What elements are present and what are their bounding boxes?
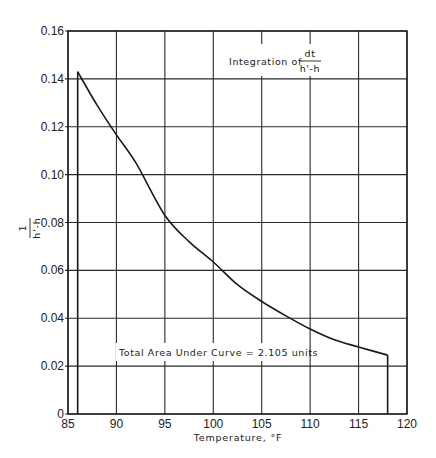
- y-axis-label: 1 h'-h: [17, 217, 42, 238]
- annotation-total-area: Total Area Under Curve = 2.105 units: [118, 347, 318, 358]
- data-curve: [78, 72, 388, 355]
- x-tick-label: 120: [397, 417, 417, 431]
- y-tick-label: 0.06: [41, 263, 65, 277]
- x-tick-label: 100: [203, 417, 223, 431]
- y-tick-label: 0.14: [41, 72, 65, 86]
- x-tick-label: 110: [301, 417, 320, 431]
- x-axis-label: Temperature, °F: [193, 432, 282, 443]
- chart: 85909510010511011512000.020.040.060.080.…: [0, 0, 436, 458]
- x-tick-label: 115: [349, 417, 368, 431]
- y-tick-label: 0.10: [41, 168, 65, 182]
- x-tick-label: 90: [110, 417, 124, 431]
- annotation-fraction-numerator: dt: [305, 48, 316, 59]
- x-tick-label: 105: [252, 417, 272, 431]
- y-tick-label: 0: [57, 407, 64, 421]
- y-tick-label: 0.12: [41, 120, 65, 134]
- y-tick-label: 0.16: [41, 24, 65, 38]
- x-tick-label: 95: [158, 417, 172, 431]
- y-tick-label: 0.08: [41, 216, 65, 230]
- y-tick-label: 0.02: [41, 359, 65, 373]
- y-axis-label-numerator: 1: [17, 225, 28, 232]
- y-axis-label-denominator: h'-h: [31, 217, 42, 238]
- y-tick-label: 0.04: [41, 311, 65, 325]
- annotation-fraction-denominator: h'-h: [300, 63, 320, 74]
- axis-ticks: 85909510010511011512000.020.040.060.080.…: [41, 24, 418, 431]
- annotation-integration-label: Integration of: [229, 56, 302, 67]
